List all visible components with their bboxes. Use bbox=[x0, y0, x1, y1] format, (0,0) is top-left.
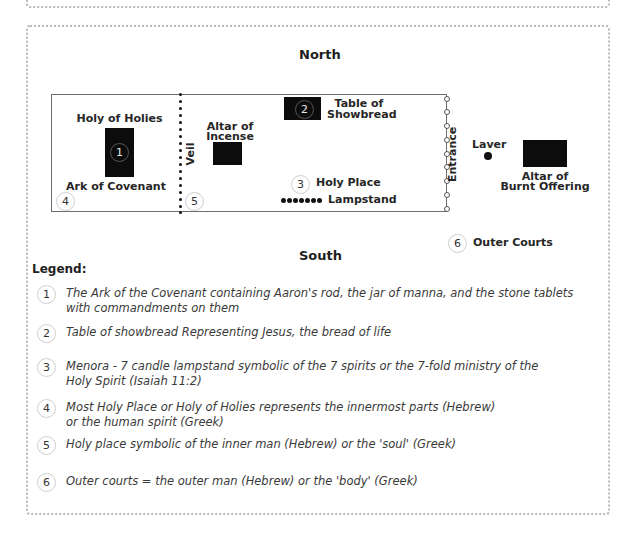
marker-1: 1 bbox=[110, 143, 129, 162]
veil-dot bbox=[179, 184, 182, 187]
veil-label: Veil bbox=[185, 139, 197, 169]
north-label: North bbox=[299, 47, 341, 62]
laver-label: Laver bbox=[472, 139, 507, 151]
holy-place-label: Holy Place bbox=[316, 177, 381, 189]
entrance-ring bbox=[444, 192, 450, 198]
veil-dot bbox=[179, 177, 182, 180]
veil-dot bbox=[179, 121, 182, 124]
lamp-dot bbox=[281, 198, 286, 203]
lamp-dot bbox=[311, 198, 316, 203]
legend-text: Most Holy Place or Holy of Holies repres… bbox=[66, 400, 506, 430]
legend-marker: 3 bbox=[37, 358, 56, 377]
veil-dot bbox=[179, 149, 182, 152]
lamp-dot bbox=[317, 198, 322, 203]
table-of-showbread-label-line2: Showbread bbox=[327, 109, 391, 121]
altar-of-incense-block bbox=[213, 142, 242, 165]
lamp-dot bbox=[293, 198, 298, 203]
entrance-ring bbox=[444, 206, 450, 212]
legend-text: Menora - 7 candle lampstand symbolic of … bbox=[66, 359, 541, 389]
veil-dot bbox=[179, 163, 182, 166]
marker-2: 2 bbox=[295, 100, 314, 119]
marker-4: 4 bbox=[56, 192, 75, 211]
entrance-label: Entrance bbox=[447, 132, 459, 182]
veil-dot bbox=[179, 142, 182, 145]
ark-of-covenant-label: Ark of Covenant bbox=[66, 181, 166, 193]
marker-5: 5 bbox=[185, 192, 204, 211]
entrance-ring bbox=[444, 96, 450, 102]
legend-marker: 4 bbox=[37, 399, 56, 418]
lampstand-label: Lampstand bbox=[328, 194, 397, 206]
veil-dot bbox=[179, 135, 182, 138]
outer-courts-label: Outer Courts bbox=[473, 237, 553, 249]
veil-dot bbox=[179, 100, 182, 103]
veil-dot bbox=[179, 128, 182, 131]
legend-text: Table of showbread Representing Jesus, t… bbox=[66, 325, 591, 340]
legend-text: Outer courts = the outer man (Hebrew) or… bbox=[66, 474, 591, 489]
altar-of-burnt-offering-block bbox=[523, 140, 567, 167]
veil-dot bbox=[179, 198, 182, 201]
legend-text: The Ark of the Covenant containing Aaron… bbox=[66, 286, 591, 316]
lamp-dot bbox=[287, 198, 292, 203]
marker-6: 6 bbox=[448, 234, 467, 253]
legend-marker: 1 bbox=[37, 285, 56, 304]
veil-dot bbox=[179, 170, 182, 173]
veil-dot bbox=[179, 156, 182, 159]
lamp-dot bbox=[305, 198, 310, 203]
entrance-ring bbox=[444, 109, 450, 115]
legend-marker: 5 bbox=[37, 436, 56, 455]
legend-marker: 6 bbox=[37, 473, 56, 492]
veil-dot bbox=[179, 114, 182, 117]
veil-dot bbox=[179, 191, 182, 194]
marker-3: 3 bbox=[291, 175, 310, 194]
altar-burnt-label-line2: Burnt Offering bbox=[495, 181, 595, 193]
top-frame-border bbox=[26, 0, 610, 8]
veil-dot bbox=[179, 205, 182, 208]
veil-dot bbox=[179, 93, 182, 96]
laver-icon bbox=[484, 152, 492, 160]
holy-of-holies-label: Holy of Holies bbox=[72, 113, 167, 125]
veil-dot bbox=[179, 107, 182, 110]
legend-title: Legend: bbox=[32, 262, 86, 276]
veil-dot bbox=[179, 211, 182, 214]
legend-marker: 2 bbox=[37, 324, 56, 343]
south-label: South bbox=[299, 248, 342, 263]
legend-text: Holy place symbolic of the inner man (He… bbox=[66, 437, 591, 452]
lamp-dot bbox=[299, 198, 304, 203]
